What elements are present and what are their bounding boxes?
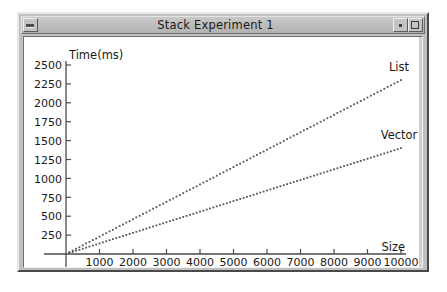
window-titlebar[interactable]: Stack Experiment 1 <box>21 16 425 34</box>
x-tick-label: 3000 <box>153 256 181 267</box>
data-point <box>290 182 292 184</box>
data-point <box>115 237 117 239</box>
data-point <box>253 194 255 196</box>
data-point <box>320 173 322 175</box>
data-point <box>330 116 332 118</box>
data-point <box>300 131 302 133</box>
application-window: Stack Experiment 1 250500750100012501500… <box>17 12 429 272</box>
maximize-button[interactable] <box>408 18 423 32</box>
data-point <box>347 164 349 166</box>
data-point <box>377 155 379 157</box>
data-point <box>102 241 104 243</box>
data-point <box>243 161 245 163</box>
data-point <box>135 216 137 218</box>
data-point <box>303 129 305 131</box>
data-point <box>129 220 131 222</box>
data-point <box>79 249 81 251</box>
minimize-icon <box>26 24 34 28</box>
data-point <box>367 158 369 160</box>
data-point <box>310 176 312 178</box>
data-point <box>387 151 389 153</box>
data-point <box>330 169 332 171</box>
y-tick-label: 750 <box>41 192 62 205</box>
data-point <box>92 239 94 241</box>
data-point <box>216 175 218 177</box>
data-point <box>176 196 178 198</box>
data-point <box>303 178 305 180</box>
series-vector <box>68 147 401 254</box>
data-point <box>202 210 204 212</box>
data-point <box>75 250 77 252</box>
data-point <box>132 232 134 234</box>
data-point <box>156 225 158 227</box>
data-point <box>397 81 399 83</box>
data-point <box>383 88 385 90</box>
data-point <box>196 185 198 187</box>
data-point <box>192 187 194 189</box>
data-point <box>226 170 228 172</box>
x-tick-label: 4000 <box>186 256 214 267</box>
data-point <box>75 248 77 250</box>
data-point <box>125 222 127 224</box>
y-tick-label: 1750 <box>34 116 62 129</box>
x-tick-label: 2000 <box>119 256 147 267</box>
data-point <box>149 210 151 212</box>
data-point <box>135 231 137 233</box>
data-point <box>343 109 345 111</box>
data-point <box>179 217 181 219</box>
data-point <box>105 240 107 242</box>
minimize-button[interactable] <box>23 18 38 32</box>
data-point <box>263 151 265 153</box>
data-point <box>397 148 399 150</box>
data-point <box>229 201 231 203</box>
data-point <box>266 190 268 192</box>
data-point <box>213 207 215 209</box>
data-point <box>393 83 395 85</box>
data-point <box>246 196 248 198</box>
data-point <box>333 114 335 116</box>
x-axis-title: Size <box>381 240 405 254</box>
data-point <box>400 79 402 81</box>
data-point <box>92 245 94 247</box>
maximize-icon <box>411 21 419 29</box>
data-point <box>340 111 342 113</box>
data-point <box>370 95 372 97</box>
data-point <box>263 191 265 193</box>
data-point <box>357 161 359 163</box>
data-point <box>253 156 255 158</box>
data-point <box>132 218 134 220</box>
data-point <box>239 163 241 165</box>
data-point <box>119 225 121 227</box>
data-point <box>363 99 365 101</box>
data-point <box>176 218 178 220</box>
data-point <box>387 86 389 88</box>
window-title: Stack Experiment 1 <box>38 18 393 32</box>
data-point <box>293 135 295 137</box>
data-point <box>249 157 251 159</box>
y-tick-label: 1250 <box>34 154 62 167</box>
data-point <box>239 198 241 200</box>
data-point <box>89 246 91 248</box>
data-point <box>336 167 338 169</box>
data-point <box>229 168 231 170</box>
data-point <box>286 183 288 185</box>
x-tick-label: 5000 <box>220 256 248 267</box>
data-point <box>68 252 70 254</box>
data-point <box>256 193 258 195</box>
data-point <box>363 159 365 161</box>
data-point <box>189 189 191 191</box>
data-point <box>286 138 288 140</box>
data-point <box>316 123 318 125</box>
data-point <box>370 157 372 159</box>
data-point <box>112 238 114 240</box>
y-tick-label: 500 <box>41 210 62 223</box>
data-point <box>296 133 298 135</box>
data-point <box>182 192 184 194</box>
data-point <box>300 179 302 181</box>
data-point <box>192 213 194 215</box>
data-point <box>353 103 355 105</box>
data-point <box>139 230 141 232</box>
data-point <box>199 184 201 186</box>
data-point <box>172 219 174 221</box>
restore-button[interactable] <box>393 18 408 32</box>
